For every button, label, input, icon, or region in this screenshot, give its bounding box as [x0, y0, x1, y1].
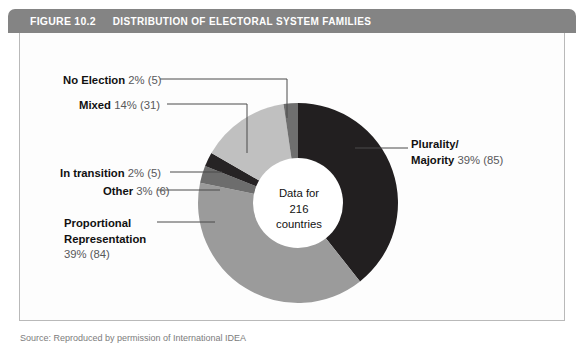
label-plurality-name-1: Plurality/ — [411, 138, 459, 150]
center-line-2: 216 — [249, 202, 349, 218]
label-proportional: Proportional Representation 39% (84) — [64, 216, 146, 263]
label-in-transition-name: In transition — [60, 167, 125, 179]
label-mixed-name: Mixed — [79, 99, 111, 111]
label-no-election: No Election 2% (5) — [63, 73, 162, 89]
label-other: Other 3% (6) — [103, 184, 170, 200]
label-mixed-value: 14% (31) — [114, 99, 160, 111]
label-other-name: Other — [103, 185, 133, 197]
label-proportional-name-1: Proportional — [64, 217, 131, 229]
label-plurality-name-2: Majority — [411, 154, 454, 166]
label-in-transition: In transition 2% (5) — [60, 166, 161, 182]
donut-center-text: Data for 216 countries — [249, 186, 349, 233]
center-line-3: countries — [249, 217, 349, 233]
source-note: Source: Reproduced by permission of Inte… — [20, 333, 246, 343]
label-plurality-value: 39% (85) — [457, 154, 503, 166]
label-plurality: Plurality/ Majority 39% (85) — [411, 137, 503, 168]
label-proportional-name-2: Representation — [64, 233, 146, 245]
label-mixed: Mixed 14% (31) — [79, 98, 160, 114]
center-line-1: Data for — [249, 186, 349, 202]
figure-container: FIGURE 10.2 DISTRIBUTION OF ELECTORAL SY… — [0, 0, 584, 344]
label-in-transition-value: 2% (5) — [128, 167, 161, 179]
label-other-value: 3% (6) — [136, 185, 169, 197]
label-no-election-name: No Election — [63, 74, 125, 86]
label-no-election-value: 2% (5) — [128, 74, 161, 86]
label-proportional-value: 39% (84) — [64, 248, 110, 260]
